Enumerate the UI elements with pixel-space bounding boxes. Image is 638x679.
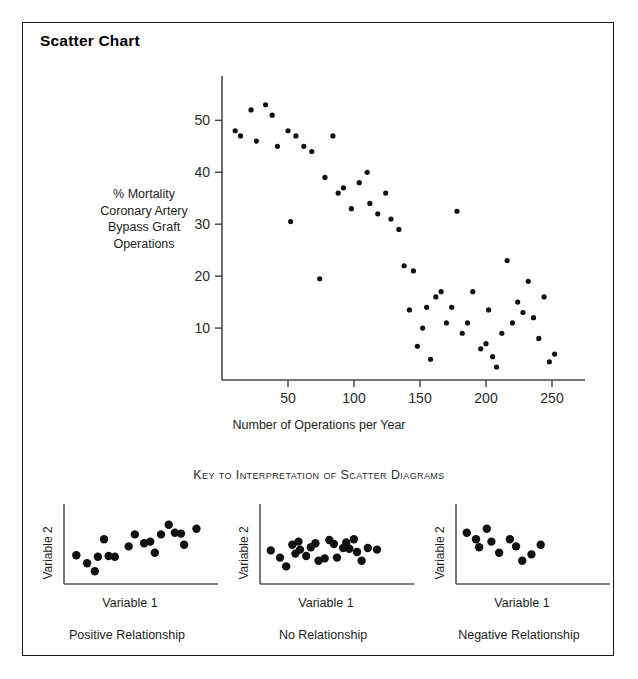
scatter-point (375, 211, 380, 216)
scatter-point (151, 549, 159, 557)
scatter-point (345, 545, 353, 553)
scatter-point (238, 133, 243, 138)
scatter-point (341, 185, 346, 190)
y-axis-label-line-4: Operations (84, 236, 204, 253)
scatter-point (475, 543, 483, 551)
scatter-point (483, 525, 491, 533)
scatter-point (520, 310, 525, 315)
scatter-point (424, 305, 429, 310)
scatter-point (263, 102, 268, 107)
scatter-point (495, 549, 503, 557)
scatter-point (454, 209, 459, 214)
scatter-point (94, 553, 102, 561)
scatter-point (552, 351, 557, 356)
scatter-point (267, 546, 275, 554)
scatter-point (317, 276, 322, 281)
scatter-point (293, 133, 298, 138)
scatter-point (515, 300, 520, 305)
mini-chart-none-svg (250, 500, 418, 592)
scatter-point (288, 219, 293, 224)
page-root: Scatter Chart 102030405050100150200250 %… (0, 0, 638, 679)
scatter-point (365, 170, 370, 175)
y-axis-label-line-1: % Mortality (84, 186, 204, 203)
mini-chart-negative: Variable 2 Variable 1 Negative Relations… (424, 500, 614, 650)
scatter-point (510, 320, 515, 325)
x-tick-label: 250 (540, 390, 564, 406)
scatter-point (388, 216, 393, 221)
scatter-point (411, 268, 416, 273)
scatter-point (309, 149, 314, 154)
scatter-point (353, 548, 361, 556)
scatter-point (91, 567, 99, 575)
mini-chart-none-caption: No Relationship (224, 628, 422, 642)
scatter-point (463, 529, 471, 537)
scatter-point (449, 305, 454, 310)
scatter-point (499, 331, 504, 336)
mini-chart-positive-x-label: Variable 1 (50, 596, 210, 610)
scatter-point (301, 144, 306, 149)
scatter-point (444, 320, 449, 325)
y-tick-label: 20 (194, 268, 210, 284)
mini-chart-none-x-label: Variable 1 (246, 596, 406, 610)
y-axis-label-line-3: Bypass Graft (84, 219, 204, 236)
scatter-point (357, 557, 365, 565)
scatter-point (131, 530, 139, 538)
mini-chart-positive: Variable 2 Variable 1 Positive Relations… (32, 500, 222, 650)
scatter-point (396, 227, 401, 232)
scatter-point (478, 346, 483, 351)
scatter-point (415, 344, 420, 349)
scatter-point (470, 289, 475, 294)
scatter-point (311, 539, 319, 547)
scatter-point (518, 557, 526, 565)
scatter-point (233, 128, 238, 133)
scatter-point (547, 359, 552, 364)
scatter-point (536, 336, 541, 341)
scatter-point (83, 559, 91, 567)
y-tick-label: 50 (194, 112, 210, 128)
scatter-point (505, 258, 510, 263)
scatter-point (531, 315, 536, 320)
y-tick-label: 40 (194, 164, 210, 180)
scatter-point (465, 320, 470, 325)
scatter-point (527, 550, 535, 558)
scatter-point (526, 279, 531, 284)
scatter-point (537, 541, 545, 549)
scatter-point (180, 541, 188, 549)
scatter-point (428, 357, 433, 362)
scatter-point (124, 542, 132, 550)
scatter-point (330, 540, 338, 548)
scatter-point (270, 113, 275, 118)
mini-chart-none: Variable 2 Variable 1 No Relationship (228, 500, 418, 650)
scatter-point (494, 364, 499, 369)
scatter-point (192, 525, 200, 533)
x-tick-label: 150 (408, 390, 432, 406)
y-tick-label: 10 (194, 320, 210, 336)
scatter-point (285, 128, 290, 133)
scatter-point (383, 190, 388, 195)
mini-chart-positive-caption: Positive Relationship (28, 628, 226, 642)
scatter-point (402, 263, 407, 268)
scatter-point (302, 552, 310, 560)
scatter-point (322, 175, 327, 180)
scatter-point (336, 190, 341, 195)
scatter-point (483, 341, 488, 346)
scatter-point (330, 133, 335, 138)
scatter-point (487, 537, 495, 545)
scatter-point (420, 325, 425, 330)
mini-chart-negative-y-label: Variable 2 (433, 513, 447, 593)
scatter-point (320, 554, 328, 562)
scatter-point (439, 289, 444, 294)
scatter-point (407, 307, 412, 312)
scatter-point (333, 553, 341, 561)
scatter-point (254, 139, 259, 144)
mini-chart-negative-svg (446, 500, 614, 592)
mini-chart-none-y-label: Variable 2 (237, 513, 251, 593)
scatter-point (506, 535, 514, 543)
scatter-point (541, 294, 546, 299)
scatter-point (367, 201, 372, 206)
scatter-point (433, 294, 438, 299)
scatter-point (460, 331, 465, 336)
main-x-axis-label: Number of Operations per Year (0, 418, 638, 432)
scatter-point (364, 544, 372, 552)
mini-chart-negative-x-label: Variable 1 (442, 596, 602, 610)
